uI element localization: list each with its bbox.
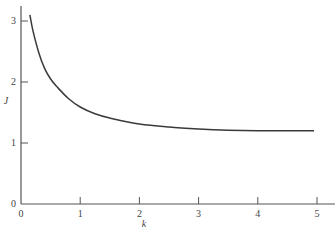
x-tick-label: 5 bbox=[315, 208, 320, 219]
x-tick-label: 3 bbox=[196, 208, 201, 219]
x-tick-label: 1 bbox=[78, 208, 83, 219]
x-axis-label: k bbox=[142, 218, 147, 229]
y-tick-label: 2 bbox=[11, 76, 16, 87]
y-tick-label: 3 bbox=[11, 15, 16, 26]
y-axis-label: J bbox=[4, 95, 9, 106]
axes bbox=[21, 6, 335, 204]
y-tick-label: 1 bbox=[11, 137, 16, 148]
x-tick-label: 4 bbox=[255, 208, 260, 219]
y-tick-label: 0 bbox=[11, 198, 16, 209]
y-ticks: 0123 bbox=[11, 15, 28, 209]
x-ticks: 012345 bbox=[19, 197, 320, 219]
data-line bbox=[30, 15, 314, 131]
line-chart: 0123 012345 k J bbox=[0, 0, 336, 231]
x-tick-label: 0 bbox=[19, 208, 24, 219]
